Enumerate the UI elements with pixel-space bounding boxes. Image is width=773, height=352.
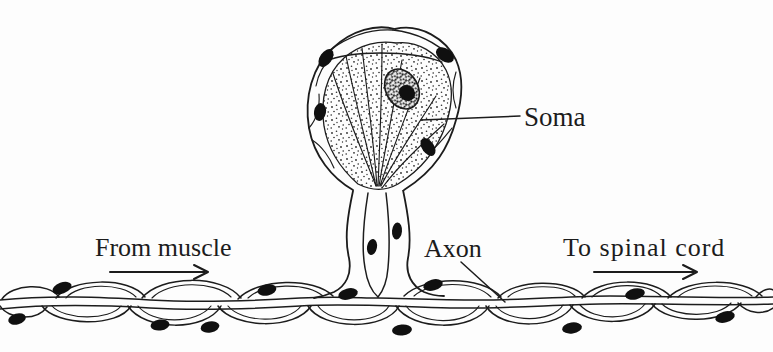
stem-line-right-inner: [378, 193, 389, 297]
myelin-inner-line: [66, 286, 136, 298]
schwann-nucleus: [150, 318, 170, 332]
myelin-segment: [396, 306, 489, 325]
myelin-inner-line: [152, 285, 231, 298]
neuron-diagram-canvas: Soma Axon From muscle To spinal cord: [0, 0, 773, 352]
myelin-inner-line: [580, 304, 645, 317]
from-muscle-arrow: [110, 265, 208, 279]
stem-nucleus: [391, 222, 402, 240]
to-spinal-cord-arrow: [594, 265, 697, 279]
neuron-diagram: Soma Axon From muscle To spinal cord: [0, 0, 773, 352]
schwann-nucleus: [561, 321, 582, 335]
axon-line-upper: [0, 296, 773, 301]
myelin-segment: [308, 306, 399, 324]
schwann-nucleus: [257, 283, 278, 298]
axon-label: Axon: [424, 234, 482, 263]
myelin-inner-line: [52, 306, 121, 317]
schwann-nucleus: [391, 323, 412, 336]
from-muscle-label: From muscle: [95, 233, 232, 262]
stem-line-left-outer: [314, 191, 353, 298]
myelin-segment: [142, 280, 241, 298]
myelin-inner-line: [508, 287, 575, 297]
myelin-segment: [498, 283, 585, 298]
soma-label: Soma: [524, 102, 586, 132]
schwann-nucleus: [624, 287, 646, 302]
to-spinal-cord-label: To spinal cord: [563, 233, 725, 262]
myelin-inner-line: [318, 306, 389, 320]
peripheral-nerve-fiber: [0, 277, 773, 336]
schwann-nucleus: [200, 320, 221, 334]
stem-nucleus: [366, 238, 379, 255]
soma: [308, 27, 462, 190]
myelin-inner-line: [678, 286, 752, 297]
schwann-nucleus: [422, 277, 444, 293]
myelin-segment: [668, 282, 762, 298]
